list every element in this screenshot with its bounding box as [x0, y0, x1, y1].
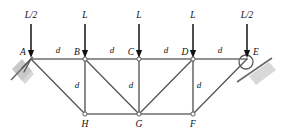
support-e-roller-circle: [239, 55, 253, 69]
dim-BH: d: [75, 80, 80, 90]
dim-CG: d: [129, 80, 134, 90]
node-pin-f: [191, 112, 195, 116]
load-B-arrow: [82, 24, 88, 58]
truss-diagram: ABCDEHGF ddddddd L/2LLLL/2: [0, 0, 285, 138]
load-C-arrow: [136, 24, 142, 58]
load-E-arrow: [244, 24, 250, 58]
dim-DF: d: [197, 80, 202, 90]
arrow-head-icon: [190, 50, 196, 58]
load-D-label: L: [189, 10, 195, 20]
node-label-a: A: [19, 47, 26, 57]
dim-AB: d: [56, 45, 61, 55]
arrow-head-icon: [82, 50, 88, 58]
arrow-head-icon: [28, 50, 34, 58]
load-E-label: L/2: [240, 10, 254, 20]
node-label-c: C: [128, 47, 135, 57]
truss-canvas: ABCDEHGF ddddddd L/2LLLL/2: [0, 0, 285, 138]
arrow-head-icon: [136, 50, 142, 58]
node-label-h: H: [81, 119, 90, 129]
node-pin-h: [83, 112, 87, 116]
load-A-arrow: [28, 24, 34, 58]
node-label-f: F: [189, 119, 196, 129]
load-labels: L/2LLLL/2: [24, 10, 254, 20]
load-C-label: L: [135, 10, 141, 20]
dim-CD: d: [164, 45, 169, 55]
node-label-b: B: [74, 47, 80, 57]
dim-DE: d: [218, 45, 223, 55]
support-a-inclined-pin: [11, 57, 34, 84]
member-dg: [139, 59, 193, 114]
node-label-g: G: [136, 119, 143, 129]
load-A-label: L/2: [24, 10, 38, 20]
load-D-arrow: [190, 24, 196, 58]
node-label-d: D: [181, 47, 189, 57]
node-pin-g: [137, 112, 141, 116]
dim-BC: d: [110, 45, 115, 55]
truss-members: [31, 59, 247, 114]
node-label-e: E: [252, 47, 259, 57]
load-B-label: L: [81, 10, 87, 20]
